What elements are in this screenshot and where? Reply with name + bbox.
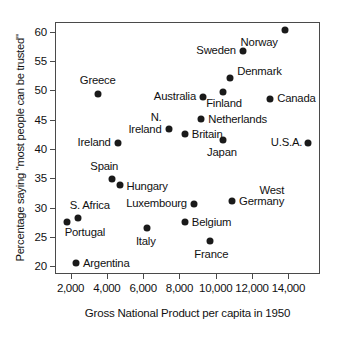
y-tick <box>50 237 56 238</box>
y-axis-title: Percentage saying "most people can be tr… <box>14 22 28 274</box>
data-point-label: Italy <box>136 236 156 248</box>
data-point-label: Spain <box>90 162 118 174</box>
data-point[interactable] <box>219 88 226 95</box>
x-tick-label: 2,000 <box>57 282 84 294</box>
data-point[interactable] <box>200 94 207 101</box>
data-point[interactable] <box>207 238 214 245</box>
data-point[interactable] <box>239 48 246 55</box>
data-point-label: Belgium <box>192 218 231 230</box>
x-tick <box>71 273 72 279</box>
x-tick-label: 8,000 <box>166 282 193 294</box>
data-point[interactable] <box>198 116 205 123</box>
data-point[interactable] <box>219 136 226 143</box>
x-tick <box>143 273 144 279</box>
data-point-label: Britain <box>192 129 223 141</box>
y-tick-label: 50 <box>35 84 47 96</box>
data-point-label: U.S.A. <box>271 137 302 149</box>
x-tick-label: 4,000 <box>93 282 120 294</box>
y-tick-label: 20 <box>35 260 47 272</box>
y-tick-label: 35 <box>35 172 47 184</box>
data-point[interactable] <box>72 260 79 267</box>
data-point-label: Canada <box>277 93 315 105</box>
data-point-label: Sweden <box>196 45 236 57</box>
x-tick-label: 14,000 <box>272 282 305 294</box>
data-point-label: Netherlands <box>208 114 267 126</box>
data-point-label: West Germany <box>239 184 284 207</box>
data-point-label: Japan <box>207 147 237 159</box>
x-tick <box>252 273 253 279</box>
data-point-label: Denmark <box>237 66 281 78</box>
y-tick <box>50 32 56 33</box>
data-point-label: S. Africa <box>70 200 110 212</box>
x-tick <box>107 273 108 279</box>
data-point-label: Luxembourg <box>126 198 187 210</box>
y-tick-label: 45 <box>35 114 47 126</box>
data-point[interactable] <box>267 95 274 102</box>
data-point[interactable] <box>227 74 234 81</box>
data-point[interactable] <box>181 219 188 226</box>
x-axis-title: Gross National Product per capita in 195… <box>55 307 320 319</box>
y-tick <box>50 90 56 91</box>
y-tick-label: 25 <box>35 231 47 243</box>
data-point[interactable] <box>281 27 288 34</box>
data-point-label: Australia <box>154 92 196 104</box>
data-point-label: Finland <box>206 98 242 110</box>
data-point[interactable] <box>165 126 172 133</box>
y-tick <box>50 149 56 150</box>
data-point[interactable] <box>63 219 70 226</box>
data-point-label: Portugal <box>65 228 105 240</box>
data-point-label: Norway <box>241 37 278 49</box>
data-point-label: Ireland <box>78 137 111 149</box>
data-point-label: N. Ireland <box>128 112 161 135</box>
x-tick <box>288 273 289 279</box>
y-tick-label: 55 <box>35 55 47 67</box>
data-point[interactable] <box>114 140 121 147</box>
data-point[interactable] <box>74 214 81 221</box>
data-point[interactable] <box>143 225 150 232</box>
plot-area: 202530354045505560 2,0004,0006,0008,0001… <box>55 22 320 274</box>
data-point-label: Hungary <box>127 182 168 194</box>
y-tick-label: 40 <box>35 143 47 155</box>
y-tick <box>50 120 56 121</box>
data-point[interactable] <box>190 201 197 208</box>
x-tick-label: 12,000 <box>235 282 268 294</box>
data-point[interactable] <box>94 91 101 98</box>
y-tick <box>50 178 56 179</box>
data-point-label: Argentina <box>83 259 130 271</box>
data-point-label: France <box>194 249 228 261</box>
y-tick <box>50 61 56 62</box>
y-tick <box>50 266 56 267</box>
y-tick-label: 60 <box>35 26 47 38</box>
data-point[interactable] <box>305 139 312 146</box>
x-tick <box>216 273 217 279</box>
data-point[interactable] <box>181 130 188 137</box>
data-point[interactable] <box>229 197 236 204</box>
x-tick-label: 6,000 <box>129 282 156 294</box>
y-tick <box>50 208 56 209</box>
data-point-label: Greece <box>80 76 116 88</box>
x-tick-label: 10,000 <box>199 282 232 294</box>
x-tick <box>179 273 180 279</box>
y-tick-label: 30 <box>35 202 47 214</box>
data-point[interactable] <box>116 182 123 189</box>
scatter-chart: 202530354045505560 2,0004,0006,0008,0001… <box>0 0 340 338</box>
data-point[interactable] <box>109 176 116 183</box>
